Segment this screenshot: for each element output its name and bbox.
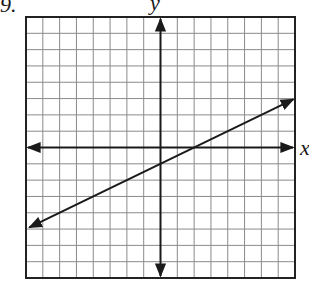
coordinate-grid: [0, 0, 309, 287]
